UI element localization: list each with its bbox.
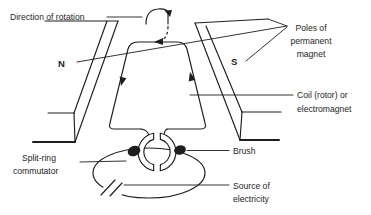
svg-text:Poles of: Poles of — [295, 23, 327, 33]
motor-diagram: Direction of rotation N S Poles of perma… — [0, 0, 371, 215]
svg-text:magnet: magnet — [297, 49, 326, 59]
label-source-of-electricity: Source of electricity — [233, 181, 270, 204]
leader-poles-to-block — [268, 19, 287, 26]
svg-text:Source of: Source of — [233, 181, 270, 191]
commutator-ring — [138, 133, 176, 170]
coil-arrow-right — [189, 72, 196, 81]
svg-text:Split-ring: Split-ring — [22, 153, 56, 163]
leader-poles-to-n — [77, 26, 287, 62]
svg-text:commutator: commutator — [13, 166, 59, 176]
svg-text:Coil (rotor) or: Coil (rotor) or — [297, 90, 348, 100]
label-poles-of-permanent-magnet: Poles of permanent magnet — [290, 23, 332, 59]
rotation-arrow — [146, 9, 172, 45]
label-coil-rotor-electromagnet: Coil (rotor) or electromagnet — [297, 90, 352, 114]
label-brush: Brush — [233, 146, 256, 156]
leader-splitring — [80, 161, 126, 162]
label-pole-s: S — [231, 56, 237, 67]
coil-arrow-left — [120, 77, 127, 86]
svg-text:permanent: permanent — [290, 36, 332, 46]
label-direction-of-rotation: Direction of rotation — [10, 12, 85, 22]
magnet-pole-left — [33, 21, 118, 142]
diagram-canvas: Direction of rotation N S Poles of perma… — [0, 0, 371, 215]
svg-text:electricity: electricity — [233, 194, 270, 204]
circuit-wire — [93, 148, 205, 198]
svg-text:electromagnet: electromagnet — [297, 104, 352, 114]
leader-lines — [77, 17, 293, 185]
label-splitring-commutator: Split-ring commutator — [13, 153, 59, 176]
label-pole-n: N — [58, 58, 65, 69]
rotor-coil — [110, 42, 206, 136]
magnet-pole-right — [195, 19, 281, 140]
